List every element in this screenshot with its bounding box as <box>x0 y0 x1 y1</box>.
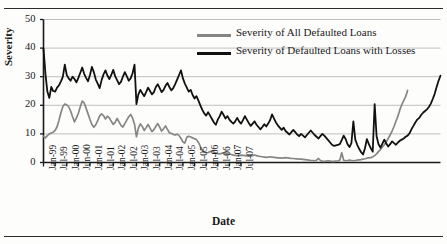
x-tick-label: Jan-02 <box>117 144 127 169</box>
x-tick-label: Jul-03 <box>152 146 162 170</box>
x-tick-label: Jan-05 <box>187 144 197 169</box>
x-tick-label: Jan-01 <box>94 144 104 169</box>
x-tick-label: Jan-03 <box>140 144 150 169</box>
y-tick-label: 40 <box>14 41 36 52</box>
x-tick-label: Jan-06 <box>210 144 220 169</box>
x-tick-label: Jul-04 <box>175 146 185 170</box>
x-tick-label: Jan-00 <box>71 144 81 169</box>
y-tick-label: 20 <box>14 98 36 109</box>
x-tick-label: Jan-04 <box>164 144 174 169</box>
x-tick-label: Jan-07 <box>233 144 243 169</box>
y-axis-title: Severity <box>2 28 14 66</box>
y-tick-label: 0 <box>14 156 36 167</box>
x-tick-label: Jun-00 <box>82 144 92 170</box>
y-tick-label: 50 <box>14 13 36 24</box>
legend-label-2: Severity of Defaulted Loans with Losses <box>236 44 415 56</box>
x-tick-label: Jul-02 <box>129 146 139 170</box>
x-tick-label: Jul-06 <box>222 146 232 170</box>
figure: Severity Date 01020304050 Jan-99Jul-99Ja… <box>0 0 447 244</box>
y-tick-label: 10 <box>14 127 36 138</box>
x-tick-label: Jul-05 <box>199 146 209 170</box>
line-chart-svg <box>0 0 447 244</box>
series-line-2 <box>44 49 441 155</box>
x-axis-title: Date <box>0 215 447 227</box>
legend-label-1: Severity of All Defaulted Loans <box>236 26 377 38</box>
plot-area <box>0 0 447 244</box>
x-tick-label: Jul-01 <box>106 146 116 170</box>
legend-swatch-1 <box>197 34 231 37</box>
legend-swatch-2 <box>197 52 231 55</box>
y-tick-label: 30 <box>14 70 36 81</box>
x-tick-label: Jul-07 <box>245 146 255 170</box>
x-tick-label: Jan-99 <box>48 144 58 169</box>
x-tick-label: Jul-99 <box>59 146 69 170</box>
